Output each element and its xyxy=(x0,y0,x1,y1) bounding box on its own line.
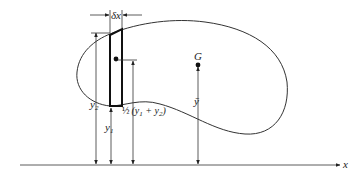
y2-label: y2 xyxy=(89,98,99,112)
elemental-strip xyxy=(110,29,122,106)
centroid-label: G xyxy=(194,50,202,62)
x-axis: x xyxy=(20,158,348,170)
centroid-g: G ȳ xyxy=(193,50,202,164)
centroid-diagram: δx y2 y1 ½(y1 + y2) G ȳ x xyxy=(0,0,361,177)
centroid-dot xyxy=(196,63,201,68)
y1-dimension: y1 xyxy=(104,108,113,164)
y1-label: y1 xyxy=(104,121,113,135)
x-axis-label: x xyxy=(342,158,348,170)
half-mean-dimension: ½(y1 + y2) xyxy=(118,60,166,164)
y2-dimension: y2 xyxy=(89,33,110,164)
delta-x-dimension: δx xyxy=(90,9,142,33)
area-outline xyxy=(77,21,288,135)
half-mean-label: ½(y1 + y2) xyxy=(122,105,166,118)
delta-x-label: δx xyxy=(111,9,121,21)
y-bar-label: ȳ xyxy=(193,95,200,107)
strip-centroid-dot xyxy=(114,57,119,62)
